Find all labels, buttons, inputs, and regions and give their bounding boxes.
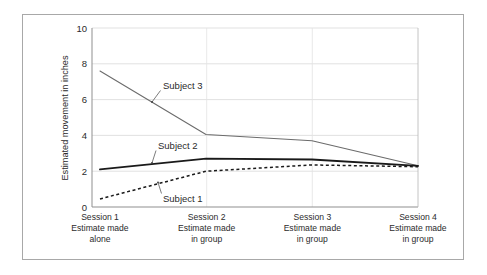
annotation-subject-1: Subject 1 [163,193,203,204]
x-category-session-1: Session 1 Estimate made alone [71,212,129,244]
x-category-session-2-line2: Estimate made [178,223,236,233]
leader-dot-subject-1 [157,182,159,184]
y-tick-6: 6 [82,94,87,105]
y-tick-4: 4 [82,130,87,141]
annotation-subject-2: Subject 2 [158,140,198,151]
annotation-subject-3: Subject 3 [163,80,203,91]
x-category-session-1-line3: alone [89,234,110,244]
y-tick-10: 10 [76,23,87,34]
y-tick-8: 8 [82,58,87,69]
line-chart: Estimated movement in inches 10 8 6 4 2 … [0,0,487,275]
annotation-labels: Subject 3 Subject 2 Subject 1 [158,80,203,204]
axes [92,28,418,207]
x-category-session-4-line1: Session 4 [399,212,437,222]
y-tick-labels: 10 8 6 4 2 0 [76,23,87,213]
x-category-session-2-line3: in group [191,234,222,244]
gridlines [92,28,418,171]
leader-line-subject-1 [158,183,162,194]
series-line-subject-3 [100,71,418,166]
leader-dot-subject-2 [151,162,153,164]
x-category-session-2: Session 2 Estimate made in group [178,212,236,244]
x-category-session-3: Session 3 Estimate made in group [284,212,342,244]
y-tick-0: 0 [82,202,87,213]
series-line-subject-1 [100,165,418,199]
leader-line-subject-2 [152,151,156,164]
x-category-session-3-line1: Session 3 [293,212,331,222]
figure-canvas: Estimated movement in inches 10 8 6 4 2 … [0,0,487,275]
leader-line-subject-3 [152,91,161,103]
x-category-labels: Session 1 Estimate made alone Session 2 … [71,212,447,244]
x-category-session-4-line2: Estimate made [389,223,447,233]
x-category-session-3-line2: Estimate made [284,223,342,233]
x-category-session-1-line1: Session 1 [81,212,119,222]
leader-dot-subject-3 [151,101,153,103]
x-category-session-4: Session 4 Estimate made in group [389,212,447,244]
x-category-session-1-line2: Estimate made [71,223,129,233]
y-tick-2: 2 [82,166,87,177]
category-gridlines [207,28,313,207]
x-category-session-3-line3: in group [297,234,328,244]
x-category-session-4-line3: in group [402,234,433,244]
x-category-session-2-line1: Session 2 [188,212,226,222]
y-axis-title: Estimated movement in inches [60,55,70,181]
